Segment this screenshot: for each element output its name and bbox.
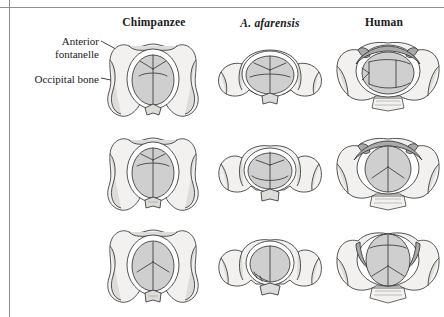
figure-chimpanzee-row-1 bbox=[99, 36, 207, 122]
figure-human-row-3 bbox=[334, 226, 442, 310]
figure-a-afarensis-row-2 bbox=[216, 140, 324, 210]
figure-chimpanzee-row-2 bbox=[99, 130, 207, 216]
figure-chimpanzee-row-3 bbox=[99, 222, 207, 310]
figure-human-row-1 bbox=[334, 38, 442, 118]
figure-a-afarensis-row-1 bbox=[216, 46, 324, 112]
figure-a-afarensis-row-3 bbox=[216, 232, 324, 304]
figure-human-row-2 bbox=[334, 134, 442, 216]
